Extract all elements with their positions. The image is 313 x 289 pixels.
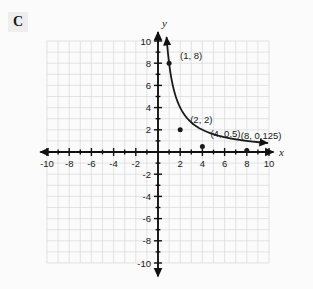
plotted-point <box>167 61 172 66</box>
y-tick-label: -8 <box>143 235 151 246</box>
point-coordinate-label: (1, 8) <box>180 50 202 61</box>
point-coordinate-label: (2, 2) <box>190 114 212 125</box>
x-axis-label: x <box>278 146 284 158</box>
x-tick-label: 10 <box>264 158 275 169</box>
graph-svg: -10-8-6-4-2246810108642-2-4-6-8-10 xy (1… <box>0 0 313 289</box>
exponential-decay-graph-screenshot: C -10-8-6-4-2246810108642-2-4-6-8-10 xy … <box>0 0 313 289</box>
x-tick-label: -4 <box>109 158 117 169</box>
data-point-labels: (1, 8)(2, 2)(4, 0.5)(8, 0.125) <box>180 50 281 140</box>
point-coordinate-label: (4, 0.5) <box>210 128 240 139</box>
x-tick-label: -10 <box>40 158 54 169</box>
x-tick-label: 8 <box>244 158 249 169</box>
point-coordinate-label: (8, 0.125) <box>241 130 282 141</box>
x-tick-label: 2 <box>178 158 183 169</box>
x-tick-label: -8 <box>65 158 73 169</box>
axes <box>40 32 273 276</box>
y-tick-label: 10 <box>140 36 151 47</box>
coordinate-plane-figure: -10-8-6-4-2246810108642-2-4-6-8-10 xy (1… <box>0 0 313 289</box>
plotted-point <box>200 144 205 149</box>
x-tick-label: 4 <box>200 158 205 169</box>
x-tick-label: -6 <box>87 158 95 169</box>
y-tick-label: -2 <box>143 169 151 180</box>
x-tick-label: -2 <box>132 158 140 169</box>
plotted-point <box>178 127 183 132</box>
y-tick-label: -4 <box>143 191 151 202</box>
y-axis-label: y <box>161 17 167 29</box>
y-tick-label: 6 <box>146 80 151 91</box>
y-tick-label: 4 <box>146 102 151 113</box>
y-tick-label: 8 <box>146 58 151 69</box>
plotted-point <box>244 148 249 153</box>
y-tick-label: 2 <box>146 124 151 135</box>
x-tick-label: 6 <box>222 158 227 169</box>
y-tick-label: -10 <box>137 258 151 269</box>
y-tick-label: -6 <box>143 213 151 224</box>
